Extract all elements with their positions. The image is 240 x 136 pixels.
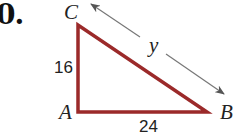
hypotenuse-dimension-arrow-upper [91, 4, 140, 37]
side-label-ab: 24 [139, 117, 158, 136]
side-label-bc: y [149, 33, 158, 58]
triangle-diagram [0, 0, 240, 136]
vertex-label-a: A [59, 100, 72, 125]
triangle-figure: 0. C A B 16 24 y [0, 0, 240, 136]
problem-number: 0. [0, 0, 23, 31]
hypotenuse-dimension-arrow-lower [166, 54, 224, 94]
vertex-label-b: B [220, 100, 233, 125]
side-label-ac: 16 [54, 58, 73, 78]
vertex-label-c: C [64, 0, 78, 25]
